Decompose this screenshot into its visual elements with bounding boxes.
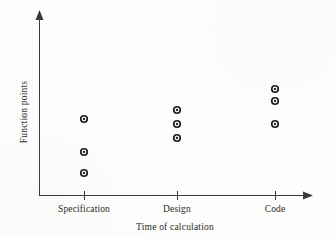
tick-label-specification: Specification [58,204,110,214]
x-axis-arrow-icon [303,192,313,200]
tick-label-design: Design [163,204,191,214]
tick-label-code: Code [265,204,286,214]
x-axis-title: Time of calculation [136,222,214,232]
data-point-specification-2 [80,148,88,156]
data-point-design-3 [173,134,181,142]
data-point-code-3 [271,120,279,128]
data-point-specification-1 [80,115,88,123]
axis-group [36,10,314,200]
x-axis-tick-labels: Specification Design Code [58,204,285,214]
data-point-design-1 [173,106,181,114]
data-point-specification-3 [80,169,88,177]
scatter-plot-figure: Specification Design Code Time of calcul… [0,0,336,238]
plot-canvas: Specification Design Code Time of calcul… [0,0,336,238]
data-point-code-1 [271,85,279,93]
y-axis-title: Function points [19,81,29,143]
y-axis-arrow-icon [36,10,44,20]
data-points-group [80,85,279,177]
data-point-design-2 [173,120,181,128]
data-point-code-2 [271,97,279,105]
